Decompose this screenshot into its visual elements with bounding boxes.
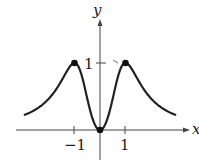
y-axis-arrow-icon (98, 19, 103, 26)
x-tick-label-1: 1 (120, 136, 130, 154)
x-axis-arrow-icon (183, 128, 190, 133)
y-tick-leader (113, 60, 118, 63)
x-tick-label-neg1: −1 (64, 136, 86, 154)
data-point (97, 127, 104, 134)
x-axis-label: x (192, 120, 199, 138)
y-axis-label: y (92, 1, 102, 19)
data-point (122, 60, 129, 67)
data-point (71, 60, 78, 67)
y-tick-label-1: 1 (84, 55, 94, 73)
function-graph: y x −1 1 1 (0, 0, 199, 162)
